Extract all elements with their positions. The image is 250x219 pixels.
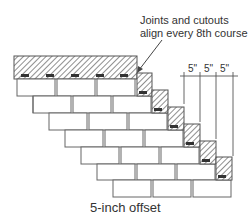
dimension-label-3: 5" (220, 63, 229, 74)
diagram-caption: 5-inch offset (90, 200, 161, 215)
callout-line-2: align every 8th course (140, 27, 248, 40)
dimension-label-2: 5" (204, 63, 213, 74)
callout-line-1: Joints and cutouts (140, 14, 248, 27)
callout-leader-arrow (137, 40, 162, 73)
top-cut-course (14, 56, 137, 79)
callout-note: Joints and cutouts align every 8th cours… (140, 14, 248, 40)
dimension-label-1: 5" (188, 63, 197, 74)
